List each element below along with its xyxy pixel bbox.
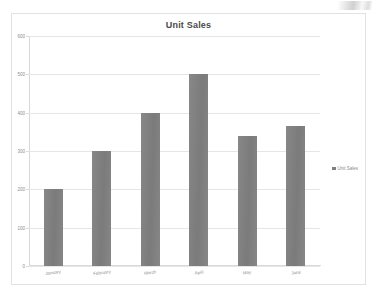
y-axis-tick [26,266,29,267]
x-axis-label: March [144,269,157,275]
x-axis-label: January [45,269,61,276]
bar[interactable] [238,136,257,266]
gridline [29,36,320,37]
bar[interactable] [189,74,208,266]
chart-title: Unit Sales [12,20,365,30]
y-axis-label: 600 [17,34,25,39]
y-axis-label: 500 [17,72,25,77]
x-axis-label: June [291,269,301,275]
y-axis-tick [26,74,29,75]
y-axis-tick [26,228,29,229]
gridline [29,151,320,152]
chart-legend[interactable]: Unit Sales [332,166,358,171]
gridline [29,74,320,75]
y-axis-label: 0 [22,264,25,269]
y-axis-label: 200 [17,187,25,192]
gridline [29,228,320,229]
bar[interactable] [92,151,111,266]
scan-artifact [338,1,372,10]
y-axis-tick [26,151,29,152]
legend-item-label: Unit Sales [338,166,359,171]
y-axis-label: 100 [17,225,25,230]
x-axis-label: April [194,269,203,275]
y-axis-tick [26,36,29,37]
y-axis-tick [26,113,29,114]
x-axis-label: May [243,270,252,276]
legend-square-marker [332,167,336,171]
y-axis-label: 300 [17,149,25,154]
gridline [29,266,320,267]
bar[interactable] [286,126,305,266]
bar[interactable] [141,113,160,266]
y-axis-label: 400 [17,110,25,115]
gridline [29,189,320,190]
bar[interactable] [44,189,63,266]
chart-container[interactable]: Unit Sales 0100200300400500600 JanuaryFe… [11,13,366,285]
plot-area[interactable]: 0100200300400500600 JanuaryFebruaryMarch… [29,36,320,266]
y-axis-tick [26,189,29,190]
x-axis-label: February [93,269,111,276]
gridline [29,113,320,114]
